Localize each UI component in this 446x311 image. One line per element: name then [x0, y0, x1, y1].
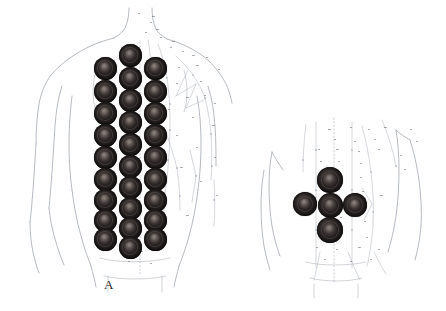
panel-a-caption: A — [104, 277, 114, 293]
cupping-mark — [94, 80, 117, 103]
cupping-mark — [119, 111, 142, 134]
meridian-label: ••• — [186, 98, 189, 101]
cupping-mark — [94, 102, 117, 125]
meridian-label: •• — [182, 52, 184, 55]
cupping-mark — [343, 193, 367, 217]
figure-root: •• ••• •• •• ••• •• ••• •• •• ••• •• •• … — [0, 0, 446, 311]
cupping-mark — [119, 236, 142, 259]
cupping-mark — [94, 228, 117, 251]
cupping-mark — [119, 155, 142, 178]
cupping-mark — [293, 192, 317, 216]
meridian-label: ••• — [180, 168, 183, 171]
cupping-mark — [119, 89, 142, 112]
cupping-mark — [317, 217, 343, 243]
meridian-label: •• — [416, 142, 418, 145]
meridian-label: •• — [138, 14, 140, 17]
meridian-label: •• — [324, 260, 326, 263]
cupping-mark — [119, 67, 142, 90]
meridian-label: •• — [204, 96, 206, 99]
meridian-label: •• — [378, 150, 380, 153]
cupping-mark — [119, 176, 142, 199]
meridian-label: ••• — [152, 17, 155, 20]
meridian-label: •• — [168, 110, 170, 113]
meridian-label: •• — [196, 148, 198, 151]
panel-b-anatomy-drawing — [250, 0, 446, 311]
cupping-mark — [144, 146, 167, 169]
meridian-label: •• — [176, 84, 178, 87]
meridian-label: •• — [404, 170, 406, 173]
meridian-label: •• — [214, 158, 216, 161]
meridian-label: •• — [338, 162, 340, 165]
meridian-label: •• — [358, 152, 360, 155]
cupping-mark — [144, 57, 167, 80]
meridian-label: •• — [200, 82, 202, 85]
meridian-label: •• — [368, 130, 370, 133]
meridian-label: ••• — [336, 150, 339, 153]
panel-b: ••• •• •• ••• •• •• •• •• •• •• ••• •• •… — [250, 0, 446, 311]
meridian-label: •• — [362, 192, 364, 195]
meridian-label: ••• — [156, 30, 159, 33]
meridian-label: •• — [336, 250, 338, 253]
cupping-mark — [144, 80, 167, 103]
meridian-label: •• — [374, 140, 376, 143]
cupping-mark — [144, 124, 167, 147]
meridian-label: •• — [340, 218, 342, 221]
meridian-label: •• — [354, 142, 356, 145]
meridian-label: •• — [216, 196, 218, 199]
meridian-label: •• — [360, 178, 362, 181]
meridian-label: •• — [218, 70, 220, 73]
meridian-label: •• — [128, 262, 130, 265]
meridian-label: ••• — [358, 248, 361, 251]
meridian-label: •• — [160, 38, 162, 41]
cupping-mark — [119, 44, 142, 67]
meridian-label: •• — [364, 222, 366, 225]
cupping-mark — [144, 228, 167, 251]
meridian-label: ••• — [384, 128, 387, 131]
meridian-label: •• — [170, 48, 172, 51]
meridian-label: ••• — [196, 66, 199, 69]
meridian-label: •• — [316, 248, 318, 251]
meridian-label: •• — [150, 23, 152, 26]
cupping-mark — [94, 57, 117, 80]
panel-a: •• ••• •• •• ••• •• ••• •• •• ••• •• •• … — [0, 0, 250, 311]
meridian-label: ••• — [192, 56, 195, 59]
meridian-label: •• — [350, 128, 352, 131]
meridian-label: •• — [206, 58, 208, 61]
meridian-label: •• — [320, 162, 322, 165]
meridian-label: ••• — [186, 216, 189, 219]
cupping-mark — [94, 146, 117, 169]
meridian-label: •• — [366, 238, 368, 241]
meridian-label: •• — [200, 182, 202, 185]
cupping-mark — [144, 168, 167, 191]
meridian-label: •• — [192, 118, 194, 121]
meridian-label: •• — [360, 164, 362, 167]
cupping-mark — [94, 124, 117, 147]
cupping-mark — [318, 193, 343, 218]
meridian-label: •• — [178, 68, 180, 71]
meridian-label: ••• — [380, 196, 383, 199]
meridian-label: •• — [350, 262, 352, 265]
meridian-label: •• — [176, 136, 178, 139]
meridian-label: •• — [145, 33, 147, 36]
meridian-label: •• — [150, 264, 152, 267]
cupping-mark — [94, 168, 117, 191]
cupping-mark — [119, 133, 142, 156]
cupping-mark — [317, 167, 343, 193]
meridian-label: ••• — [172, 42, 175, 45]
meridian-label: ••• — [328, 130, 331, 133]
meridian-label: •• — [410, 130, 412, 133]
meridian-label: •• — [318, 150, 320, 153]
meridian-label: ••• — [212, 126, 215, 129]
meridian-label: •• — [400, 156, 402, 159]
meridian-label: •• — [338, 190, 340, 193]
meridian-label: •• — [378, 250, 380, 253]
meridian-label: •• — [334, 140, 336, 143]
meridian-label: •• — [214, 104, 216, 107]
cupping-mark — [144, 102, 167, 125]
meridian-label: •• — [370, 260, 372, 263]
